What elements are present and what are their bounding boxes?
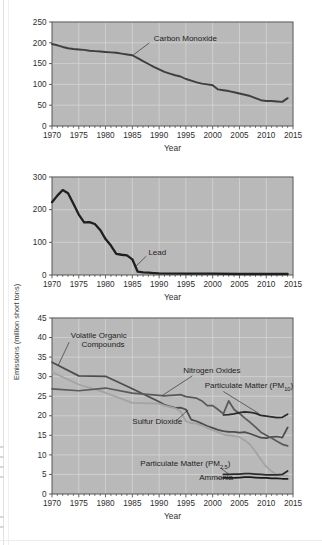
page-margin-tick: [0, 446, 4, 448]
page-margin-tick: [0, 516, 4, 518]
x-tick-label: 1980: [96, 280, 115, 289]
x-tick-label: 1985: [123, 499, 142, 508]
x-tick-label: 2010: [257, 280, 276, 289]
page-margin-tick: [0, 456, 4, 458]
y-tick-label: 35: [37, 353, 47, 362]
y-tick-label: 0: [42, 122, 47, 131]
series-annotation: Ammonia: [199, 473, 233, 482]
page-edge-line-secondary: [8, 0, 9, 545]
emissions-trends-figure: Emissions (million short tons) 050100150…: [0, 0, 322, 545]
x-tick-label: 2015: [284, 280, 303, 289]
x-tick-label: 1995: [177, 131, 196, 140]
x-tick-label: 1970: [43, 499, 62, 508]
y-tick-label: 20: [37, 411, 47, 420]
x-tick-label: 1995: [177, 280, 196, 289]
x-tick-label: 1975: [70, 131, 89, 140]
x-tick-label: 1975: [70, 280, 89, 289]
series-annotation: Volatile Organic: [71, 331, 127, 340]
y-tick-label: 100: [33, 80, 47, 89]
page-bottom-line: [0, 540, 322, 541]
y-tick-label: 50: [37, 101, 47, 110]
x-tick-label: 1990: [150, 131, 169, 140]
page-margin-tick: [0, 466, 4, 468]
x-tick-label: 1985: [123, 131, 142, 140]
x-tick-label: 2010: [257, 499, 276, 508]
y-tick-label: 0: [42, 271, 47, 280]
x-tick-label: 2005: [230, 131, 249, 140]
x-tick-label: 2015: [284, 499, 303, 508]
y-tick-label: 40: [37, 333, 47, 342]
y-tick-label: 30: [37, 372, 47, 381]
series-annotation: Lead: [148, 248, 166, 257]
y-tick-label: 5: [42, 470, 47, 479]
series-annotation: Compounds: [81, 340, 124, 349]
y-tick-label: 200: [33, 205, 47, 214]
y-tick-label: 45: [37, 314, 47, 323]
series-annotation: Carbon Monoxide: [154, 34, 218, 43]
charts-canvas: 0501001502002501970197519801985199019952…: [0, 0, 322, 545]
x-tick-label: 2000: [204, 280, 223, 289]
x-tick-label: 1970: [43, 280, 62, 289]
y-tick-label: 200: [33, 39, 47, 48]
x-tick-label: 1975: [70, 499, 89, 508]
x-tick-label: 1970: [43, 131, 62, 140]
x-tick-label: 1980: [96, 131, 115, 140]
page-edge-line: [3, 0, 4, 545]
y-tick-label: 100: [33, 238, 47, 247]
x-tick-label: 1990: [150, 499, 169, 508]
plot-background: [52, 177, 293, 275]
page-margin-tick: [0, 476, 4, 478]
panel-carbon-monoxide: 0501001502002501970197519801985199019952…: [33, 18, 303, 153]
x-tick-label: 2010: [257, 131, 276, 140]
y-tick-label: 10: [37, 451, 47, 460]
x-tick-label: 1980: [96, 499, 115, 508]
x-tick-label: 2005: [230, 499, 249, 508]
x-tick-label: 2000: [204, 131, 223, 140]
series-annotation: Nitrogen Oxides: [183, 366, 240, 375]
y-tick-label: 25: [37, 392, 47, 401]
y-axis-label: Emissions (million short tons): [12, 284, 21, 380]
x-tick-label: 2005: [230, 280, 249, 289]
y-tick-label: 250: [33, 18, 47, 27]
y-tick-label: 300: [33, 173, 47, 182]
x-tick-label: 1990: [150, 280, 169, 289]
x-axis-label: Year: [164, 143, 181, 153]
y-tick-label: 150: [33, 59, 47, 68]
series-annotation: Sulfur Dioxide: [132, 417, 182, 426]
y-tick-label: 15: [37, 431, 47, 440]
x-tick-label: 1985: [123, 280, 142, 289]
x-tick-label: 1995: [177, 499, 196, 508]
y-tick-label: 0: [42, 490, 47, 499]
panel-lead: 0100200300197019751980198519901995200020…: [33, 173, 303, 302]
x-axis-label: Year: [164, 292, 181, 302]
x-tick-label: 2000: [204, 499, 223, 508]
x-tick-label: 2015: [284, 131, 303, 140]
page-margin-tick: [0, 526, 4, 528]
x-axis-label: Year: [164, 511, 181, 521]
panel-multi: 0510152025303540451970197519801985199019…: [37, 314, 302, 521]
